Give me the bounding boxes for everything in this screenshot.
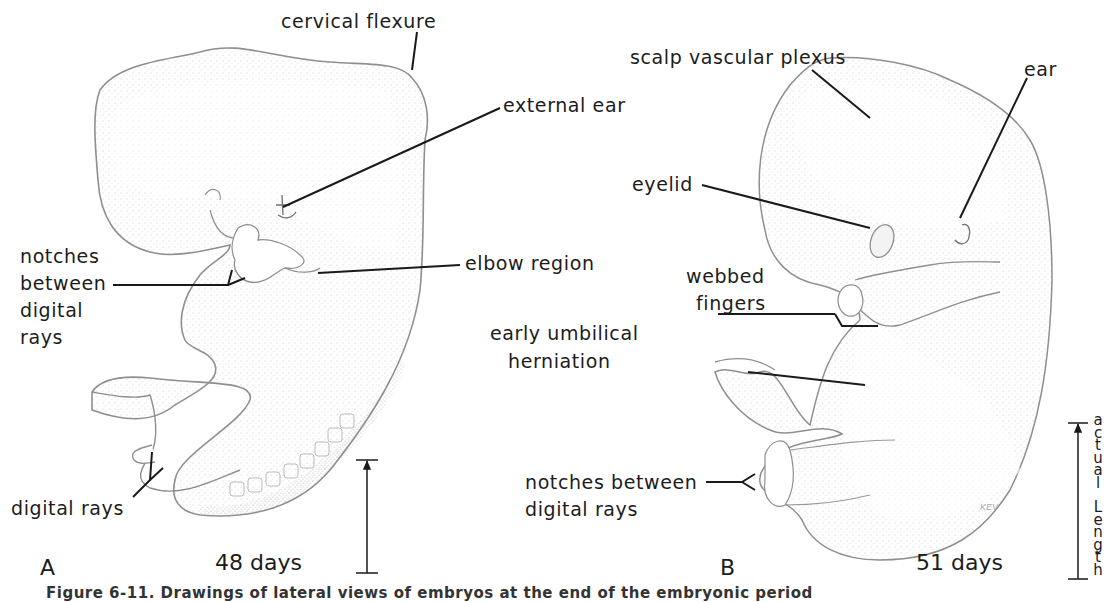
label-digital-rays: digital rays bbox=[11, 497, 124, 520]
label-scalp-vascular-plexus: scalp vascular plexus bbox=[630, 46, 846, 69]
age-label-a: 48 days bbox=[215, 550, 302, 575]
scale-char: h bbox=[1092, 564, 1104, 577]
label-notches-line-1: notches bbox=[20, 245, 99, 268]
label-webbed-fingers-line-1: webbed bbox=[686, 265, 765, 288]
label-elbow-region: elbow region bbox=[465, 252, 595, 275]
panel-letter-b: B bbox=[720, 555, 735, 580]
scale-bar-b bbox=[1068, 423, 1088, 579]
figure-caption: Figure 6-11. Drawings of lateral views o… bbox=[46, 584, 813, 602]
label-umbilical-herniation-line-2: herniation bbox=[508, 350, 611, 373]
label-notches-between-digital-rays-line-1: notches between bbox=[525, 471, 697, 494]
label-notches-line-2: between bbox=[20, 272, 106, 295]
label-eyelid: eyelid bbox=[632, 173, 693, 196]
label-external-ear: external ear bbox=[503, 94, 626, 117]
scale-bar-a bbox=[356, 460, 378, 573]
age-label-b: 51 days bbox=[916, 550, 1003, 575]
panel-letter-a: A bbox=[40, 555, 55, 580]
label-ear: ear bbox=[1024, 58, 1057, 81]
artist-initials: KEV bbox=[980, 502, 999, 512]
label-notches-between-digital-rays-line-2: digital rays bbox=[525, 498, 638, 521]
label-cervical-flexure: cervical flexure bbox=[281, 10, 436, 33]
label-umbilical-herniation-line-1: early umbilical bbox=[490, 322, 639, 345]
label-notches-line-3: digital bbox=[20, 299, 83, 322]
label-notches-line-4: rays bbox=[20, 326, 63, 349]
scale-char: l bbox=[1092, 477, 1104, 490]
embryo-a bbox=[92, 48, 427, 517]
label-webbed-fingers-line-2: fingers bbox=[696, 292, 766, 315]
scale-label-actual-length: a c t u a l L e n g t h bbox=[1092, 414, 1104, 576]
